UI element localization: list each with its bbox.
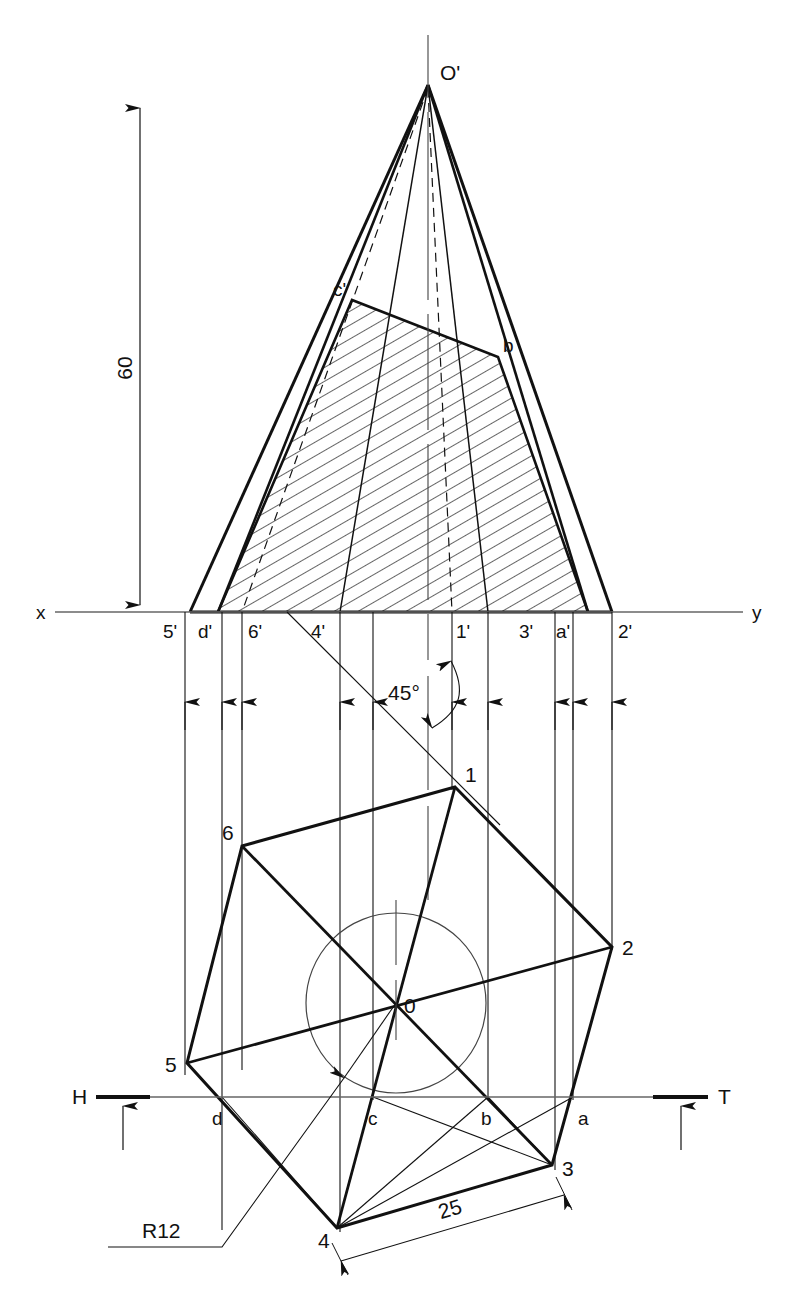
xy-label-3prime: 3' (519, 621, 533, 642)
plan-vertex-2-label: 2 (622, 936, 634, 959)
height-dimension-label: 60 (113, 356, 136, 379)
xy-label-2prime: 2' (618, 621, 632, 642)
ht-label-d: d (212, 1108, 223, 1129)
angle-label-45: 45° (388, 681, 420, 704)
ext-line-3 (556, 1177, 572, 1210)
xy-label-aprime: a' (556, 621, 570, 642)
projector-arrowheads (185, 702, 612, 730)
xy-label-6prime: 6' (248, 621, 262, 642)
ht-label-c: c (368, 1108, 378, 1129)
front-elevation-view: O' c' b (190, 35, 612, 900)
xy-label-dprime: d' (198, 621, 212, 642)
construction-4-d (222, 1097, 337, 1228)
construction-4-b (337, 1097, 488, 1228)
angle-arc-45 (432, 661, 459, 728)
mitre-line-group: 45° (287, 612, 500, 825)
height-dimension: 60 (113, 108, 140, 605)
construction-3-c (373, 1097, 552, 1165)
xy-right-label: y (752, 602, 762, 623)
ht-left-label: H (72, 1085, 87, 1108)
ht-label-b: b (481, 1108, 492, 1129)
projector-lines (185, 612, 612, 1232)
radius-callout: R12 (108, 1078, 344, 1247)
plan-vertex-5-label: 5 (165, 1053, 177, 1076)
xy-left-label: x (36, 602, 46, 623)
construction-3-b (488, 1097, 552, 1165)
diagonal-3-6 (242, 846, 552, 1165)
ht-right-label: T (718, 1085, 731, 1108)
plan-center-label: 0 (404, 994, 416, 1017)
base-edge-dimension: 25 (332, 1177, 572, 1275)
ext-line-4 (332, 1243, 348, 1275)
orthographic-projection-svg: O' c' b 60 x y 5' (0, 0, 802, 1301)
mitre-45-line (287, 612, 500, 825)
xy-label-5prime: 5' (163, 621, 177, 642)
apex-label: O' (440, 61, 460, 84)
ht-reference-line-group: H T d c b a (72, 1085, 731, 1150)
xy-point-labels: 5' d' 6' 4' 1' 3' a' 2' (163, 621, 632, 642)
technical-drawing-canvas: O' c' b 60 x y 5' (0, 0, 802, 1301)
xy-label-1prime: 1' (456, 621, 470, 642)
radius-label: R12 (142, 1219, 181, 1242)
plan-vertex-4-label: 4 (318, 1229, 330, 1252)
section-point-c-prime-label: c' (333, 279, 346, 300)
section-point-b-label: b (503, 335, 514, 356)
diagonal-2-5 (187, 947, 612, 1063)
plan-vertex-3-label: 3 (562, 1157, 574, 1180)
plan-vertex-1-label: 1 (465, 763, 477, 786)
ht-label-a: a (578, 1108, 589, 1129)
plan-vertex-6-label: 6 (222, 821, 234, 844)
top-plan-view: 0 1 2 3 4 5 6 (165, 763, 634, 1252)
